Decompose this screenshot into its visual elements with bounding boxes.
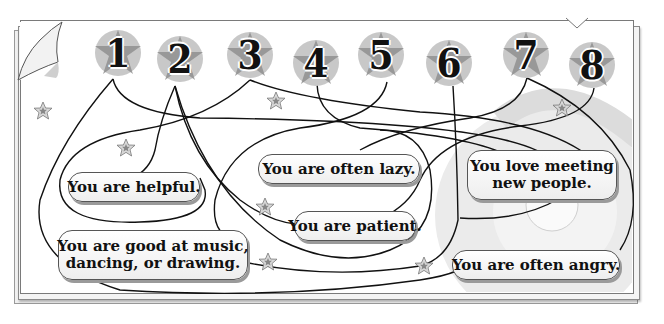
statement-text: You are patient.: [288, 218, 421, 235]
number-badge-1[interactable]: 1: [93, 28, 143, 78]
number-badge-8[interactable]: 8: [567, 40, 617, 90]
star-icon: [553, 99, 571, 116]
statement-lazy[interactable]: You are often lazy.: [258, 154, 420, 184]
number-badge-3[interactable]: 3: [225, 30, 275, 80]
star-icon: [259, 253, 277, 270]
number-label: 4: [303, 43, 328, 83]
star-icon: [267, 92, 285, 109]
number-label: 6: [436, 43, 461, 83]
number-label: 2: [167, 39, 192, 79]
number-badge-7[interactable]: 7: [501, 30, 551, 80]
statement-text-line1: You are good at music,: [57, 238, 248, 255]
statement-text-line2: new people.: [492, 175, 592, 192]
statement-text-line1: You love meeting: [470, 158, 614, 175]
statement-text: You are often lazy.: [262, 161, 415, 178]
number-label: 3: [237, 35, 262, 75]
star-icon: [117, 139, 135, 156]
number-badge-4[interactable]: 4: [291, 38, 341, 88]
number-label: 1: [105, 33, 130, 73]
number-badge-2[interactable]: 2: [155, 34, 205, 84]
statement-patient[interactable]: You are patient.: [294, 211, 416, 241]
star-icon: [34, 102, 52, 119]
statement-helpful[interactable]: You are helpful.: [68, 172, 200, 202]
statement-meeting[interactable]: You love meeting new people.: [467, 150, 617, 200]
statement-text-line2: dancing, or drawing.: [66, 255, 240, 272]
number-label: 8: [579, 45, 604, 85]
number-badge-5[interactable]: 5: [356, 30, 406, 80]
statement-text: You are helpful.: [68, 179, 201, 196]
statement-text: You are often angry.: [452, 257, 620, 274]
star-icon: [415, 257, 433, 274]
statement-angry[interactable]: You are often angry.: [452, 250, 620, 280]
maze-worksheet: 1 2 3 4 5 6 7 8 You are helpful. You are…: [0, 0, 664, 324]
number-badge-6[interactable]: 6: [424, 38, 474, 88]
star-icon: [256, 198, 274, 215]
number-label: 7: [513, 35, 538, 75]
number-label: 5: [368, 35, 393, 75]
statement-music[interactable]: You are good at music, dancing, or drawi…: [58, 230, 248, 280]
